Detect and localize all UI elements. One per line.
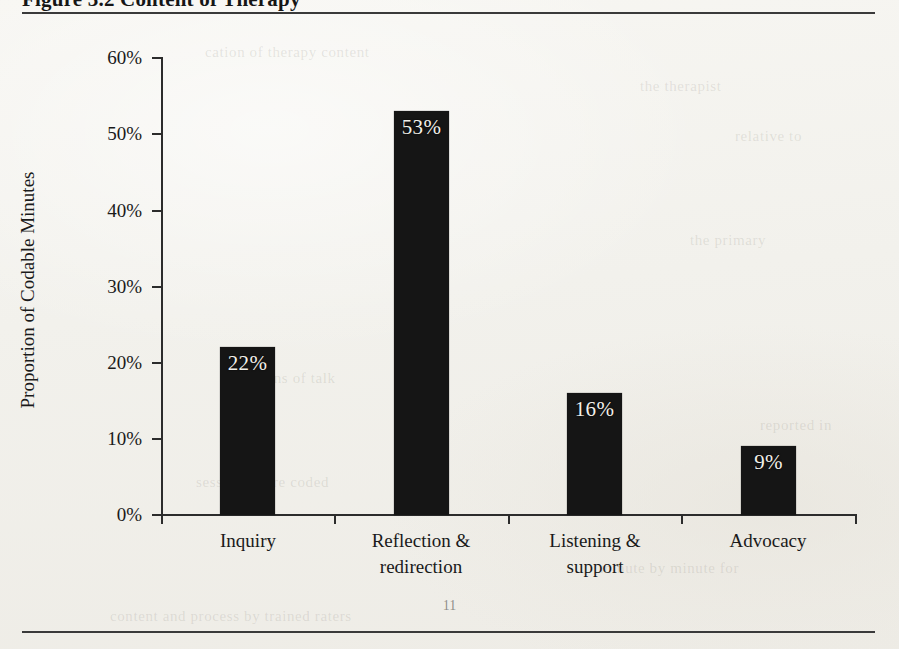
x-category-label-reflection-redirection: Reflection & redirection <box>321 528 521 580</box>
y-tick-10 <box>152 438 163 440</box>
y-tick-label-60: 60% <box>36 47 142 69</box>
y-tick-30 <box>152 286 163 288</box>
y-tick-label-50: 50% <box>36 123 142 145</box>
y-tick-label-30: 30% <box>36 276 142 298</box>
bar-value-inquiry: 22% <box>220 351 275 376</box>
bar-value-listening-support: 16% <box>567 397 622 422</box>
y-tick-label-20: 20% <box>36 352 142 374</box>
x-tick-2 <box>508 514 510 524</box>
x-category-line1: Inquiry <box>220 530 276 551</box>
x-tick-1 <box>334 514 336 524</box>
x-category-line2: support <box>495 554 695 580</box>
y-tick-label-10: 10% <box>36 428 142 450</box>
x-category-line1: Advocacy <box>729 530 806 551</box>
x-tick-4 <box>855 514 857 524</box>
bar-listening-support[interactable]: 16% <box>567 393 622 515</box>
x-tick-0 <box>161 514 163 524</box>
bar-advocacy[interactable]: 9% <box>741 446 796 515</box>
x-category-line2: redirection <box>321 554 521 580</box>
bar-reflection-redirection[interactable]: 53% <box>394 111 449 515</box>
bar-value-advocacy: 9% <box>741 450 796 475</box>
x-category-label-inquiry: Inquiry <box>148 528 348 554</box>
y-tick-label-40: 40% <box>36 200 142 222</box>
x-tick-3 <box>681 514 683 524</box>
x-category-label-advocacy: Advocacy <box>668 528 868 554</box>
y-tick-label-0: 0% <box>36 504 142 526</box>
x-category-line1: Reflection & <box>372 530 471 551</box>
bar-value-reflection-redirection: 53% <box>394 115 449 140</box>
x-category-line1: Listening & <box>549 530 640 551</box>
x-category-label-listening-support: Listening & support <box>495 528 695 580</box>
y-tick-50 <box>152 133 163 135</box>
bar-chart: Proportion of Codable Minutes 60% 50% 40… <box>0 0 899 649</box>
y-tick-20 <box>152 362 163 364</box>
y-tick-60 <box>152 57 163 59</box>
bar-inquiry[interactable]: 22% <box>220 347 275 515</box>
y-tick-40 <box>152 210 163 212</box>
